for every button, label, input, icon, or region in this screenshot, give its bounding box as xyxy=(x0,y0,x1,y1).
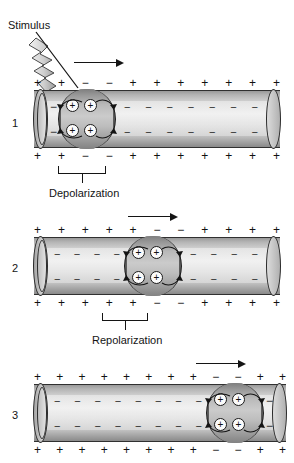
inner-dash-bottom-3-3: − xyxy=(115,422,121,430)
charge-top-3-7: + xyxy=(190,371,197,383)
inner-dash-top-3-1: − xyxy=(74,397,80,405)
charge-bottom-1-10: + xyxy=(273,150,280,162)
axon-cut-end-1 xyxy=(33,89,48,149)
axon-far-end-1 xyxy=(266,89,281,149)
inner-dash-bottom-right-2-3: − xyxy=(252,275,258,283)
inner-dash-top-1-0: − xyxy=(124,103,130,111)
inner-dash-bottom-left-2-0: − xyxy=(54,275,60,283)
inside-charges-bottom-3: −−−−−−−− xyxy=(54,422,202,430)
charge-bottom-2-8: + xyxy=(225,297,232,309)
inner-dash-bottom-1-3: − xyxy=(188,128,194,136)
charge-top-2-5: − xyxy=(153,224,160,236)
outside-charges-bottom-2: +++++−−++++ xyxy=(34,297,280,309)
inside-charges-top-1: −−−−−−− xyxy=(124,103,258,111)
inner-dash-bottom-1-2: − xyxy=(167,128,173,136)
charge-bottom-2-7: + xyxy=(201,297,208,309)
charge-top-3-4: + xyxy=(123,371,130,383)
inner-dash-bottom-3-2: − xyxy=(94,422,100,430)
charge-bottom-1-9: + xyxy=(249,150,256,162)
inner-dash-bottom-1-0: − xyxy=(124,128,130,136)
charge-bottom-3-5: + xyxy=(145,444,152,456)
charge-top-2-1: + xyxy=(58,224,65,236)
repolarization-bracket xyxy=(102,313,148,331)
charge-top-2-8: + xyxy=(225,224,232,236)
inner-dash-bottom-left-2-1: − xyxy=(74,275,80,283)
charge-bottom-2-1: + xyxy=(58,297,65,309)
charge-top-3-3: + xyxy=(101,371,108,383)
inner-dash-bottom-right-2-1: − xyxy=(211,275,217,283)
charge-top-2-9: + xyxy=(249,224,256,236)
inner-dash-bottom-right-2-0: − xyxy=(190,275,196,283)
charge-top-2-10: + xyxy=(273,224,280,236)
charge-top-3-5: + xyxy=(145,371,152,383)
outside-charges-top-3: ++++++++−−++ xyxy=(34,371,286,383)
charge-top-1-8: + xyxy=(225,77,232,89)
inner-dash-top-3-2: − xyxy=(94,397,100,405)
axon-3: −−−−−−−− −−−−−−−− − − + + + + xyxy=(34,384,286,442)
axon-cut-end-2 xyxy=(33,236,48,296)
charge-top-2-0: + xyxy=(34,224,41,236)
inner-dash-bottom-3-5: − xyxy=(155,422,161,430)
inner-dash-bottom-3-6: − xyxy=(175,422,181,430)
charge-top-1-1: + xyxy=(58,77,65,89)
inner-dash-bottom-3-0: − xyxy=(54,422,60,430)
charge-top-2-6: − xyxy=(177,224,184,236)
charge-bottom-1-6: + xyxy=(177,150,184,162)
charge-top-1-7: + xyxy=(201,77,208,89)
charge-bottom-2-9: + xyxy=(249,297,256,309)
inner-dash-bottom-right-2-2: − xyxy=(231,275,237,283)
outside-charges-top-2: +++++−−++++ xyxy=(34,224,280,236)
charge-top-1-10: + xyxy=(273,77,280,89)
charge-bottom-3-7: + xyxy=(190,444,197,456)
charge-bottom-2-10: + xyxy=(273,297,280,309)
charge-top-2-7: + xyxy=(201,224,208,236)
panel-number-1: 1 xyxy=(12,118,18,129)
depolarization-bracket xyxy=(58,166,106,184)
impulse-direction-arrow-2 xyxy=(128,212,178,221)
charge-top-1-0: + xyxy=(34,77,41,89)
inside-charges-top-right-2: −−−− xyxy=(190,250,258,258)
inner-dash-bottom-1-1: − xyxy=(145,128,151,136)
charge-bottom-3-11: + xyxy=(279,444,286,456)
impulse-direction-arrow xyxy=(74,58,124,67)
charge-bottom-3-3: + xyxy=(101,444,108,456)
inner-dash-top-3-5: − xyxy=(155,397,161,405)
inside-charges-bottom-1: −−−−−−− xyxy=(124,128,258,136)
charge-bottom-2-6: − xyxy=(177,297,184,309)
charge-bottom-1-4: + xyxy=(130,150,137,162)
charge-top-3-6: + xyxy=(168,371,175,383)
inner-dash-top-1-2: − xyxy=(167,103,173,111)
axon-cut-end-3 xyxy=(33,383,48,443)
inner-dash-top-3-3: − xyxy=(115,397,121,405)
depolarization-label: Depolarization xyxy=(49,188,119,199)
axon-2: −−−− −−−− −−−− −−−− + + + + xyxy=(34,237,280,295)
charge-bottom-3-4: + xyxy=(123,444,130,456)
charge-bottom-1-0: + xyxy=(34,150,41,162)
charge-top-1-4: + xyxy=(130,77,137,89)
inside-charges-bottom-right-2: −−−− xyxy=(190,275,258,283)
charge-top-1-9: + xyxy=(249,77,256,89)
inner-dash-bottom-3-4: − xyxy=(135,422,141,430)
inner-dash-top-right-2-2: − xyxy=(231,250,237,258)
inner-dash-top-3-0: − xyxy=(54,397,60,405)
charge-bottom-2-4: + xyxy=(130,297,137,309)
charge-top-2-2: + xyxy=(82,224,89,236)
charge-top-3-2: + xyxy=(79,371,86,383)
charge-top-1-6: + xyxy=(177,77,184,89)
inner-dash-top-3-6: − xyxy=(175,397,181,405)
inner-dash-top-right-2-3: − xyxy=(252,250,258,258)
charge-top-1-3: − xyxy=(106,77,113,89)
inside-charges-top-3: −−−−−−−− xyxy=(54,397,202,405)
inner-dash-top-1-5: − xyxy=(230,103,236,111)
charge-bottom-2-0: + xyxy=(34,297,41,309)
outside-charges-bottom-3: ++++++++−−++ xyxy=(34,444,286,456)
inner-dash-bottom-3-1: − xyxy=(74,422,80,430)
outside-charges-bottom-1: ++−−+++++++ xyxy=(34,150,280,162)
axon-far-end-3 xyxy=(272,383,287,443)
charge-bottom-1-2: − xyxy=(82,150,89,162)
local-current-arrows-1 xyxy=(52,94,124,146)
inner-dash-top-left-2-2: − xyxy=(94,250,100,258)
charge-bottom-3-0: + xyxy=(34,444,41,456)
charge-top-1-5: + xyxy=(153,77,160,89)
charge-bottom-1-5: + xyxy=(153,150,160,162)
